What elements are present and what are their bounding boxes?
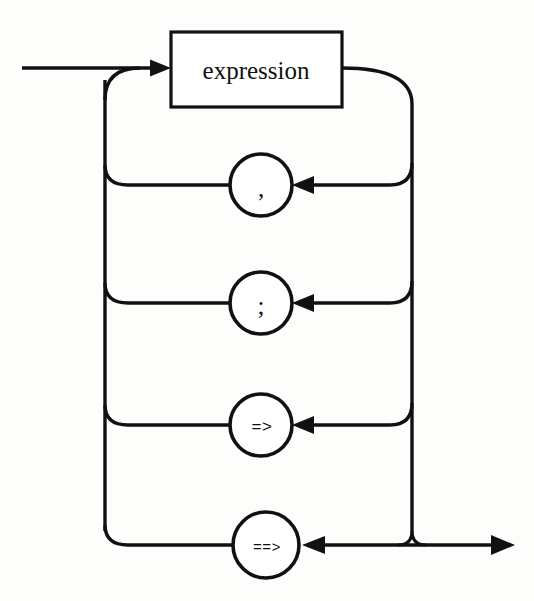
- railroad-diagram: , ; => ==>: [0, 0, 534, 601]
- left-rail-entry-fillet: [105, 68, 140, 100]
- node-arrow-single-label: =>: [252, 417, 273, 436]
- semicolon-arrow-icon: [292, 294, 314, 312]
- arrow-double-arrow-icon: [302, 536, 325, 554]
- row-comma: ,: [105, 154, 412, 216]
- expression-node-group: expression: [171, 32, 342, 107]
- row-arrow-single: =>: [105, 394, 412, 456]
- arrow-single-left-branch: [105, 405, 230, 425]
- node-semicolon-label: ;: [258, 292, 265, 319]
- diagram-canvas: , ; => ==>: [0, 0, 534, 601]
- right-rail-junction-fillet-left: [398, 531, 412, 545]
- exit-arrow-icon: [491, 535, 515, 555]
- arrow-single-arrow-icon: [292, 416, 314, 434]
- entry-arrow-icon: [150, 60, 171, 77]
- semicolon-left-branch: [105, 283, 230, 303]
- node-comma-label: ,: [258, 175, 264, 202]
- right-rail-junction-fillet-right: [412, 531, 426, 545]
- semicolon-right-branch: [300, 281, 412, 303]
- arrow-single-right-branch: [300, 403, 412, 425]
- row-semicolon: ;: [105, 272, 412, 334]
- entry-line-group: [22, 60, 171, 77]
- node-arrow-double-label: ==>: [253, 538, 281, 555]
- row-arrow-double: ==>: [105, 512, 412, 578]
- right-rail-group: [342, 68, 426, 545]
- comma-right-branch: [300, 163, 412, 185]
- node-expression-label: expression: [203, 57, 310, 84]
- arrow-double-left-branch: [105, 525, 233, 545]
- comma-arrow-icon: [292, 176, 314, 194]
- exit-line-group: [412, 535, 515, 555]
- right-rail-entry-fillet: [342, 68, 412, 104]
- comma-left-branch: [105, 165, 230, 185]
